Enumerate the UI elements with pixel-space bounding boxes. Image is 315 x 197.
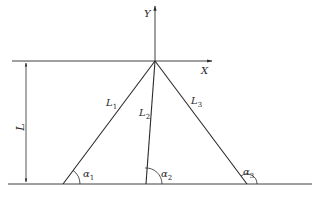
dimension-label-L: L [14, 123, 27, 131]
segment-L3 [155, 61, 247, 184]
angle-arc-alpha1 [73, 170, 80, 184]
segment-label-L1: L1 [105, 97, 117, 111]
angle-label-alpha1: α1 [83, 168, 94, 182]
angle-arc-alpha2 [145, 168, 162, 184]
geometry-diagram: Y X L L1 L2 L3 α1 α2 α3 [0, 0, 315, 197]
segment-label-L2: L2 [138, 107, 150, 121]
segment-L1 [63, 61, 155, 184]
x-axis-label: X [200, 65, 209, 76]
y-axis-label: Y [144, 8, 152, 19]
angle-label-alpha3: α3 [243, 166, 254, 180]
segment-label-L3: L3 [190, 95, 202, 109]
segment-L2 [146, 61, 155, 184]
angle-label-alpha2: α2 [161, 168, 172, 182]
diagram-canvas: Y X L L1 L2 L3 α1 α2 α3 [0, 0, 315, 197]
